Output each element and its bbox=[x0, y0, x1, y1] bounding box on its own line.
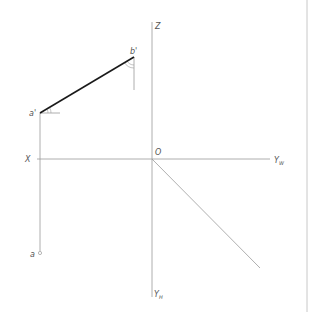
yw-axis-label: YW bbox=[274, 156, 285, 166]
point-a-prime-label: a' bbox=[29, 109, 36, 118]
point-a-label: a bbox=[30, 250, 35, 259]
a-prime-angle-arc-2 bbox=[50, 108, 51, 113]
line-a-prime-b-prime bbox=[40, 57, 134, 113]
point-a-marker bbox=[38, 251, 41, 254]
origin-label: O bbox=[155, 148, 161, 157]
projection-diagram: Z O X YW YH a' b' a bbox=[0, 0, 310, 312]
yw-axis-subscript: W bbox=[279, 160, 285, 166]
point-b-prime-label: b' bbox=[130, 47, 137, 56]
yh-axis-label: YH bbox=[154, 290, 163, 300]
x-axis-label: X bbox=[24, 155, 31, 164]
miter-line bbox=[152, 159, 260, 268]
a-prime-angle-arc bbox=[47, 109, 48, 113]
z-axis-label: Z bbox=[154, 22, 161, 31]
yh-axis-subscript: H bbox=[159, 294, 163, 300]
